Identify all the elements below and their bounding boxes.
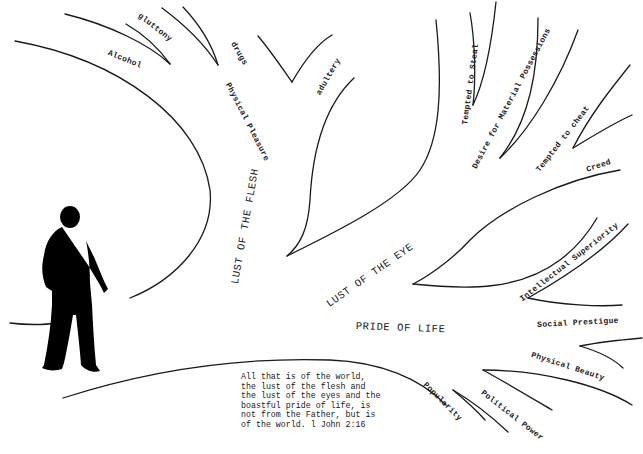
verse-line: not from the Father, but is — [241, 410, 380, 420]
walking-man-silhouette-icon — [38, 205, 113, 375]
bible-verse: All that is of the world, the lust of th… — [241, 372, 380, 430]
verse-line: boastful pride of life, is — [241, 401, 380, 411]
verse-line: the lust of the eyes and the — [241, 391, 380, 401]
verse-line: All that is of the world, — [241, 372, 380, 382]
verse-line: the lust of the flesh and — [241, 382, 380, 392]
verse-line: of the world. l John 2:16 — [241, 420, 380, 430]
